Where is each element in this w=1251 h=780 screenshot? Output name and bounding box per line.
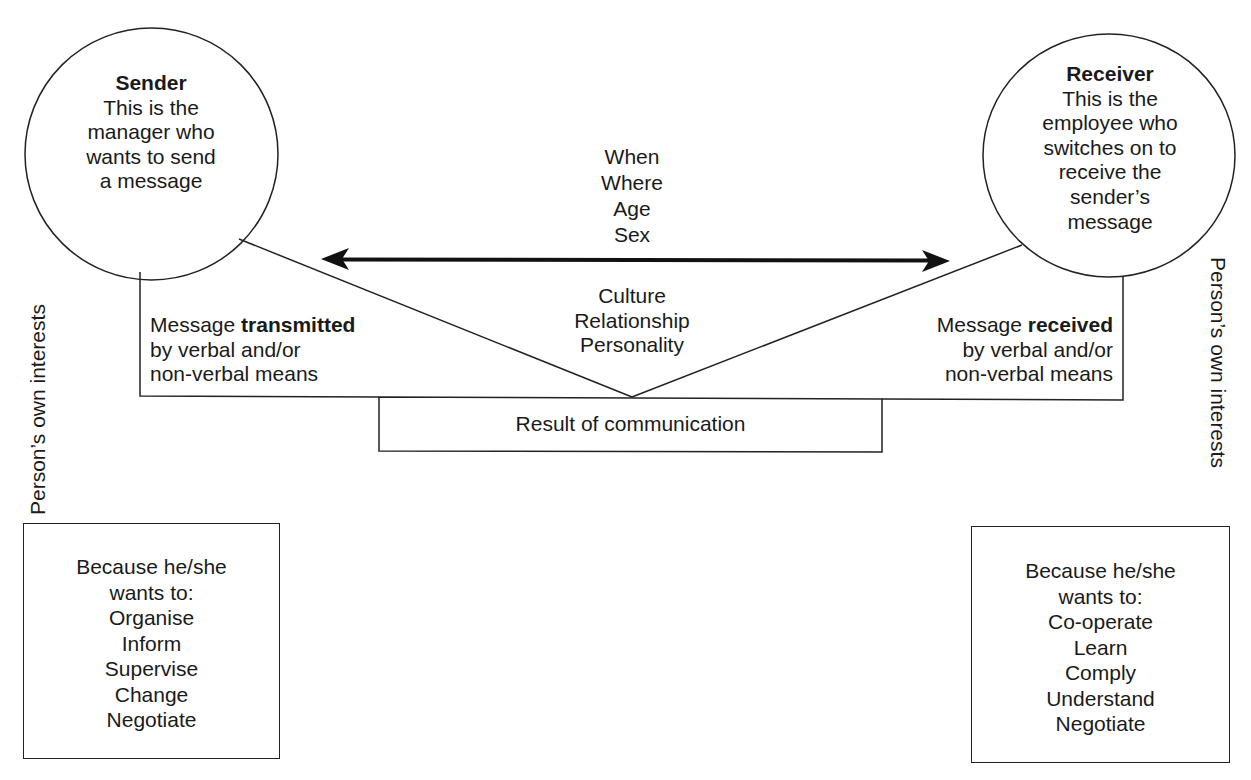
interest-item: Learn: [972, 635, 1229, 661]
message-received-label: Message received by verbal and/or non-ve…: [937, 313, 1113, 387]
transmitted-prefix: Message: [150, 313, 241, 336]
sender-title: Sender: [31, 71, 271, 96]
interest-item: Comply: [972, 660, 1229, 686]
interests-heading: Because he/she: [972, 558, 1229, 584]
interest-item: Supervise: [24, 656, 279, 682]
received-line: by verbal and/or: [937, 338, 1113, 363]
received-emphasis: received: [1028, 313, 1113, 336]
context-factor: Personality: [532, 333, 732, 358]
context-factor: Culture: [532, 284, 732, 309]
received-line: non-verbal means: [937, 362, 1113, 387]
double-arrow-shaft: [340, 260, 930, 261]
transmitted-line: by verbal and/or: [150, 338, 355, 363]
context-factor: Relationship: [532, 309, 732, 334]
sender-line: manager who: [31, 120, 271, 145]
message-transmitted-label: Message transmitted by verbal and/or non…: [150, 313, 355, 387]
interest-item: Negotiate: [24, 707, 279, 733]
receiver-line: employee who: [990, 111, 1230, 136]
context-factor: When: [532, 144, 732, 170]
interest-item: Negotiate: [972, 711, 1229, 737]
interest-item: Understand: [972, 686, 1229, 712]
transmitted-line: non-verbal means: [150, 362, 355, 387]
sender-line: This is the: [31, 96, 271, 121]
interests-heading: wants to:: [24, 580, 279, 606]
receiver-interests-side-label: Person’s own interests: [1206, 257, 1230, 468]
interest-item: Change: [24, 682, 279, 708]
context-factors-top: When Where Age Sex: [532, 144, 732, 248]
receiver-title: Receiver: [990, 62, 1230, 87]
sender-interests-box: Because he/she wants to: Organise Inform…: [23, 523, 280, 759]
receiver-description: Receiver This is the employee who switch…: [990, 62, 1230, 234]
receiver-line: switches on to: [990, 136, 1230, 161]
sender-description: Sender This is the manager who wants to …: [31, 71, 271, 194]
interest-item: Co-operate: [972, 609, 1229, 635]
interest-item: Inform: [24, 631, 279, 657]
receiver-interests-box: Because he/she wants to: Co-operate Lear…: [971, 526, 1230, 763]
interest-item: Organise: [24, 605, 279, 631]
receiver-line: This is the: [990, 87, 1230, 112]
received-prefix: Message: [937, 313, 1028, 336]
receiver-line: receive the: [990, 160, 1230, 185]
context-factor: Sex: [532, 222, 732, 248]
receiver-interests-list: Because he/she wants to: Co-operate Lear…: [972, 558, 1229, 737]
interests-heading: wants to:: [972, 584, 1229, 610]
context-factor: Where: [532, 170, 732, 196]
interests-heading: Because he/she: [24, 554, 279, 580]
sender-interests-side-label: Person’s own interests: [26, 304, 50, 515]
context-factor: Age: [532, 196, 732, 222]
receiver-line: sender’s: [990, 185, 1230, 210]
sender-interests-list: Because he/she wants to: Organise Inform…: [24, 554, 279, 733]
result-label: Result of communication: [379, 412, 882, 437]
context-factors-bottom: Culture Relationship Personality: [532, 284, 732, 358]
receiver-line: message: [990, 210, 1230, 235]
sender-line: wants to send: [31, 145, 271, 170]
transmitted-emphasis: transmitted: [241, 313, 355, 336]
sender-line: a message: [31, 169, 271, 194]
